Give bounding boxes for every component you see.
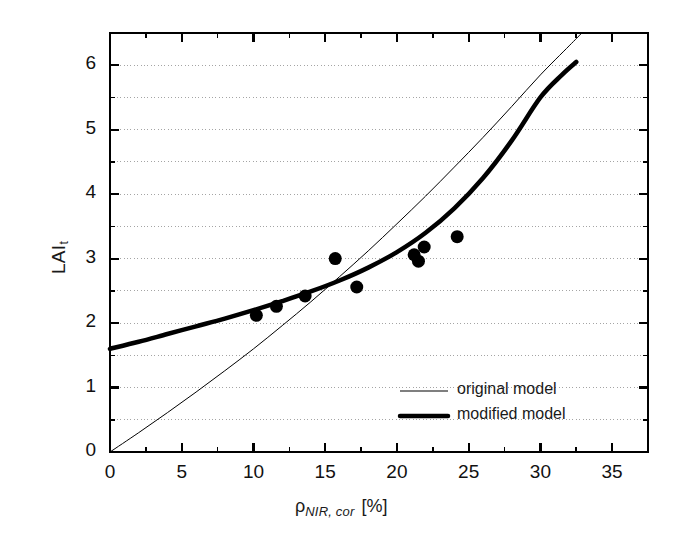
data-point-marker bbox=[250, 309, 263, 322]
x-tick-label: 15 bbox=[300, 461, 350, 483]
y-tick-label: 2 bbox=[58, 310, 96, 332]
x-tick-label: 20 bbox=[372, 461, 422, 483]
x-tick-label: 35 bbox=[587, 461, 637, 483]
plot-frame bbox=[110, 33, 648, 452]
y-tick-label: 6 bbox=[58, 52, 96, 74]
data-point-marker bbox=[418, 241, 431, 254]
data-point-marker bbox=[451, 230, 464, 243]
y-tick-label: 4 bbox=[58, 181, 96, 203]
x-tick-label: 5 bbox=[157, 461, 207, 483]
legend-label-original-model: original model bbox=[457, 380, 557, 398]
x-tick-label: 30 bbox=[515, 461, 565, 483]
x-tick-label: 25 bbox=[444, 461, 494, 483]
x-tick-label: 10 bbox=[228, 461, 278, 483]
data-point-marker bbox=[329, 252, 342, 265]
data-point-marker bbox=[412, 255, 425, 268]
y-tick-label: 5 bbox=[58, 117, 96, 139]
data-point-marker bbox=[299, 290, 312, 303]
y-tick-label: 0 bbox=[58, 439, 96, 461]
series-line-modified-model bbox=[110, 62, 576, 349]
y-tick-label: 1 bbox=[58, 375, 96, 397]
data-point-marker bbox=[270, 300, 283, 313]
x-tick-label: 0 bbox=[85, 461, 135, 483]
legend-label-modified-model: modified model bbox=[457, 405, 566, 423]
chart-figure: LAIt ρNIR, cor[%] 051015202530350123456o… bbox=[0, 0, 678, 550]
y-tick-label: 3 bbox=[58, 246, 96, 268]
data-point-marker bbox=[350, 280, 363, 293]
